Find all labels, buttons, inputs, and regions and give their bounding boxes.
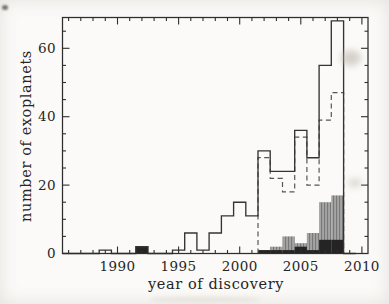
y-axis-title: number of exoplanets xyxy=(18,50,34,222)
y-tick-label-0: 0 xyxy=(47,245,56,261)
x-axis-title: year of discovery xyxy=(148,276,284,292)
x-tick-label-2010: 2010 xyxy=(344,258,380,274)
histogram-plot-area: 199019952000200520100204060 xyxy=(0,0,389,304)
exoplanet-discovery-histogram-figure: 199019952000200520100204060 number of ex… xyxy=(0,0,389,304)
all-exoplanets-outline xyxy=(63,21,356,254)
x-tick-label-1990: 1990 xyxy=(100,258,136,274)
x-tick-label-1995: 1995 xyxy=(161,258,197,274)
y-tick-label-40: 40 xyxy=(38,108,56,124)
x-tick-label-2005: 2005 xyxy=(283,258,319,274)
y-tick-label-60: 60 xyxy=(38,40,56,56)
y-tick-label-20: 20 xyxy=(38,177,56,193)
x-tick-label-2000: 2000 xyxy=(222,258,258,274)
